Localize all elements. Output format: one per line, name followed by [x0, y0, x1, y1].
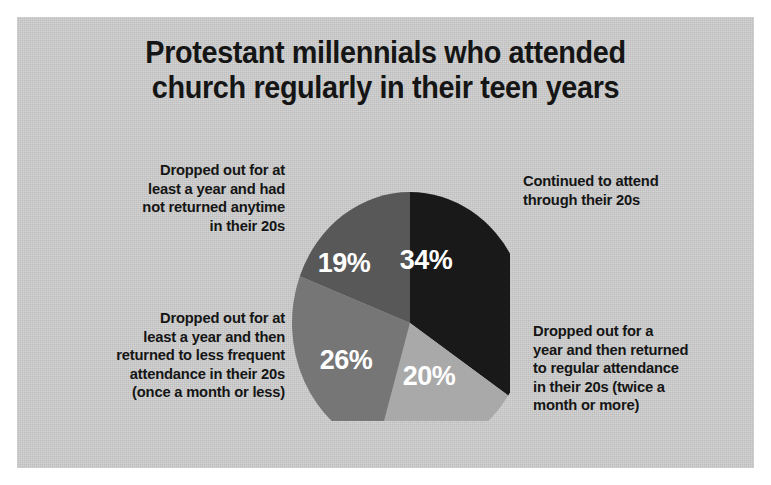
callout-line: through their 20s: [523, 191, 734, 210]
callout-label-returned-regular-attendance: Dropped out for a year and then returned…: [533, 322, 742, 415]
callout-line: not returned anytime: [70, 198, 285, 217]
callout-line: month or more): [533, 396, 742, 415]
callout-line: attendance in their 20s: [61, 365, 285, 384]
callout-label-continued-to-attend: Continued to attend through their 20s: [523, 172, 734, 209]
callout-line: Dropped out for a: [533, 322, 742, 341]
pie-slice-value-continued-to-attend: 34%: [400, 245, 453, 275]
pie-slice-group: [292, 192, 510, 421]
pie-slice-value-returned-regular-attendance: 20%: [403, 361, 456, 391]
callout-line: (once a month or less): [61, 383, 285, 402]
callout-line: Dropped out for at: [70, 161, 285, 180]
chart-plate: Protestant millennials who attended chur…: [17, 17, 754, 468]
pie-slice-value-never-returned: 19%: [318, 248, 371, 278]
chart-page: Protestant millennials who attended chur…: [0, 0, 771, 485]
pie-slice-value-returned-less-frequent-attendance: 26%: [320, 345, 373, 375]
callout-line: in their 20s: [70, 217, 285, 236]
callout-line: year and then returned: [533, 341, 742, 360]
callout-line: in their 20s (twice a: [533, 378, 742, 397]
page-title: Protestant millennials who attended chur…: [43, 35, 728, 105]
callout-line: least a year and then: [61, 328, 285, 347]
callout-line: Continued to attend: [523, 172, 734, 191]
callout-label-never-returned: Dropped out for at least a year and had …: [70, 161, 285, 235]
page-title-line-2: church regularly in their teen years: [43, 70, 728, 105]
callout-label-returned-less-frequent: Dropped out for at least a year and then…: [61, 309, 285, 402]
callout-line: to regular attendance: [533, 359, 742, 378]
page-title-line-1: Protestant millennials who attended: [43, 35, 728, 70]
callout-line: least a year and had: [70, 180, 285, 199]
pie-chart: 34%20%26%19%: [274, 159, 510, 421]
callout-line: Dropped out for at: [61, 309, 285, 328]
callout-line: returned to less frequent: [61, 346, 285, 365]
pie-chart-svg: 34%20%26%19%: [274, 159, 510, 421]
